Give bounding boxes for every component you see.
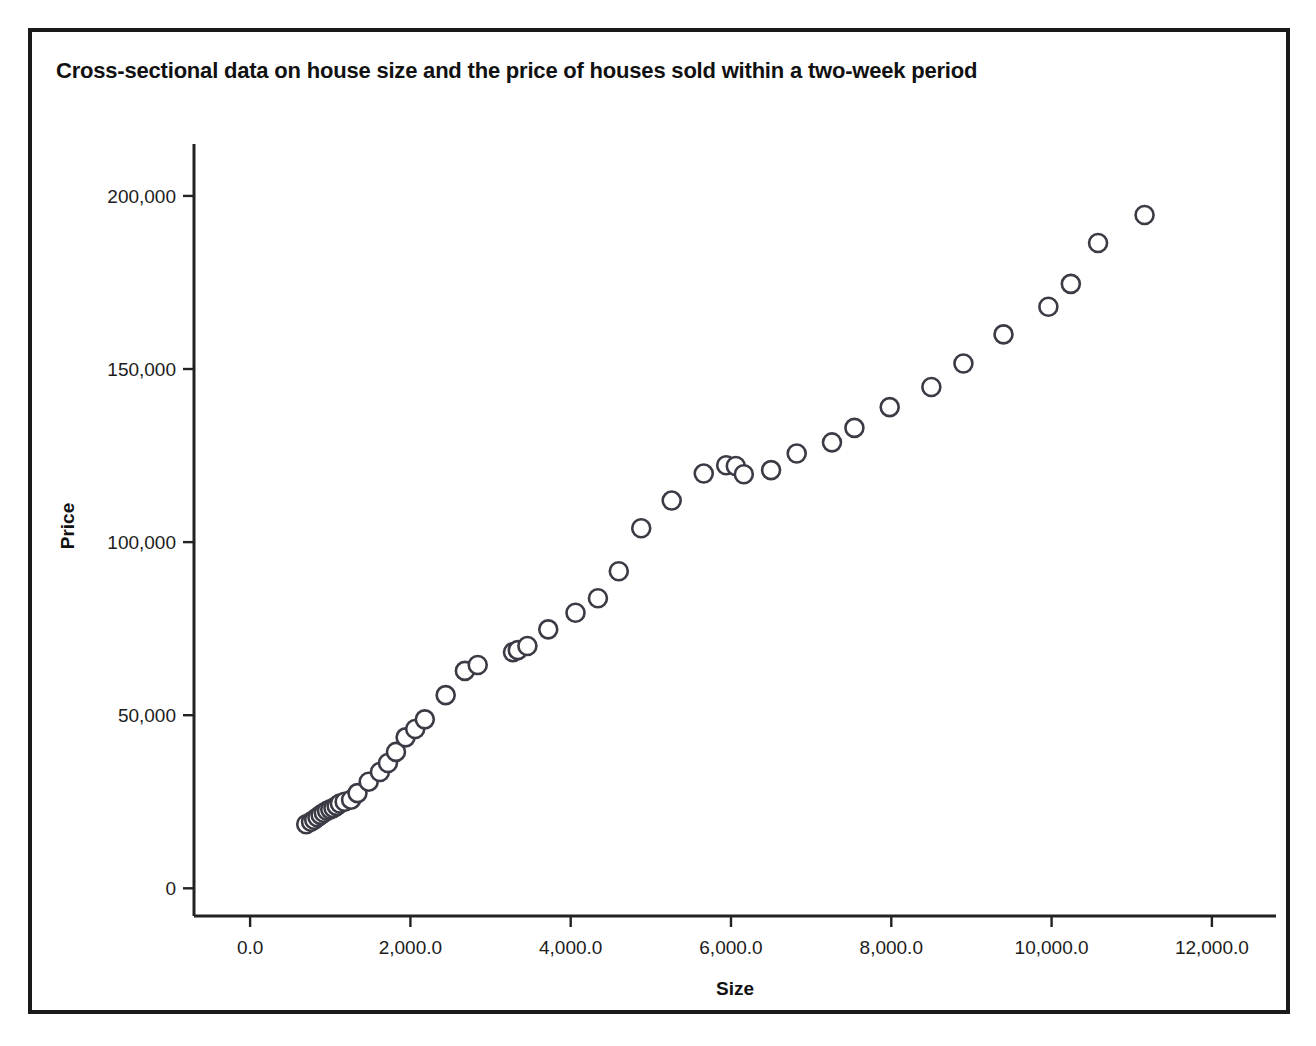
scatter-point	[1062, 275, 1080, 293]
price-tick-label: 100,000	[107, 532, 176, 553]
price-tick-label: 150,000	[107, 359, 176, 380]
scatter-points-group	[297, 206, 1153, 833]
figure-frame: Cross-sectional data on house size and t…	[28, 28, 1290, 1014]
scatter-point	[1136, 206, 1154, 224]
scatter-point	[610, 562, 628, 580]
size-tick-label: 2,000.0	[379, 937, 442, 958]
size-tick-label: 8,000.0	[860, 937, 923, 958]
scatter-point	[735, 465, 753, 483]
size-tick-label: 4,000.0	[539, 937, 602, 958]
scatter-point	[567, 604, 585, 622]
size-tick-label: 0.0	[237, 937, 263, 958]
price-tick-label: 200,000	[107, 186, 176, 207]
scatter-point	[539, 620, 557, 638]
scatter-point	[823, 433, 841, 451]
size-tick-group: 0.02,000.04,000.06,000.08,000.010,000.01…	[237, 916, 1249, 958]
scatter-point	[788, 444, 806, 462]
plot-area: 050,000100,000150,000200,000 0.02,000.04…	[32, 32, 1294, 1018]
price-axis-title: Price	[57, 503, 78, 549]
scatter-point	[762, 461, 780, 479]
size-axis-title: Size	[716, 978, 754, 999]
price-tick-label: 50,000	[118, 705, 176, 726]
price-tick-label: 0	[165, 878, 176, 899]
scatter-point	[881, 398, 899, 416]
scatter-point	[922, 378, 940, 396]
scatter-point	[995, 325, 1013, 343]
price-tick-group: 050,000100,000150,000200,000	[107, 186, 194, 899]
scatter-point	[416, 710, 434, 728]
scatter-point	[518, 637, 536, 655]
scatter-point	[437, 686, 455, 704]
scatter-point	[1089, 234, 1107, 252]
scatter-point	[695, 465, 713, 483]
scatter-point	[469, 656, 487, 674]
size-tick-label: 6,000.0	[699, 937, 762, 958]
scatter-point	[845, 419, 863, 437]
scatter-point	[954, 354, 972, 372]
scatter-point	[632, 519, 650, 537]
size-tick-label: 10,000.0	[1015, 937, 1089, 958]
scatter-point	[663, 492, 681, 510]
chart-page: Cross-sectional data on house size and t…	[0, 0, 1316, 1046]
scatter-point	[1039, 298, 1057, 316]
size-tick-label: 12,000.0	[1175, 937, 1249, 958]
scatter-point	[589, 589, 607, 607]
scatter-plot-svg: 050,000100,000150,000200,000 0.02,000.04…	[32, 32, 1294, 1018]
